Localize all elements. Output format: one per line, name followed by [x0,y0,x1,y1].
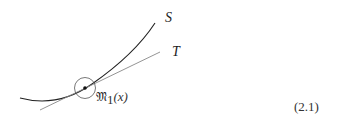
argument: (x) [114,89,128,104]
frak-m: 𝔐 [96,90,107,104]
label-t: T [172,44,181,59]
neighborhood-label: 𝔐1(x) [96,89,128,107]
curve-s [20,23,155,101]
diagram-canvas: S T 𝔐1(x) (2.1) [0,0,343,119]
equation-number: (2.1) [294,99,319,114]
label-s: S [165,10,172,25]
point-x [83,86,87,90]
